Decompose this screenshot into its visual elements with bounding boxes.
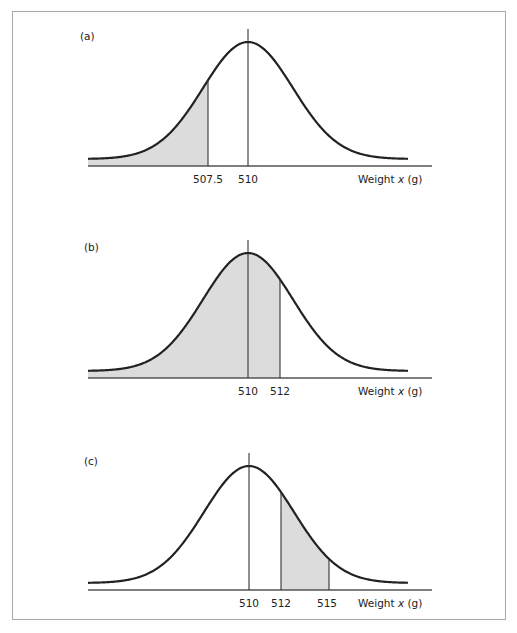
panel-label-b: (b): [84, 241, 99, 253]
tick-label-507-5: 507.5: [193, 173, 223, 185]
tick-label-510-b: 510: [238, 385, 258, 397]
x-axis-label-a: Weight x (g): [358, 173, 422, 185]
shaded-area-a: [88, 80, 208, 166]
panel-label-c: (c): [84, 455, 98, 467]
tick-label-510-a: 510: [238, 173, 258, 185]
shaded-area-c: [281, 492, 329, 590]
panel-c: (c) 510 512 515 Weight x (g): [84, 453, 432, 609]
tick-label-512-c: 512: [271, 597, 291, 609]
shaded-area-b: [88, 253, 280, 378]
panel-b: (b) 510 512 Weight x (g): [84, 240, 432, 397]
x-axis-label-c: Weight x (g): [358, 597, 422, 609]
x-axis-label-b: Weight x (g): [358, 385, 422, 397]
tick-label-510-c: 510: [239, 597, 259, 609]
normal-curve-c: [88, 466, 408, 583]
normal-distribution-figure: (a) 507.5 510 Weight x (g) (b) 510 512 W…: [0, 0, 517, 633]
tick-label-512-b: 512: [270, 385, 290, 397]
panel-label-a: (a): [80, 30, 95, 42]
panel-a: (a) 507.5 510 Weight x (g): [80, 29, 432, 185]
tick-label-515-c: 515: [317, 597, 337, 609]
